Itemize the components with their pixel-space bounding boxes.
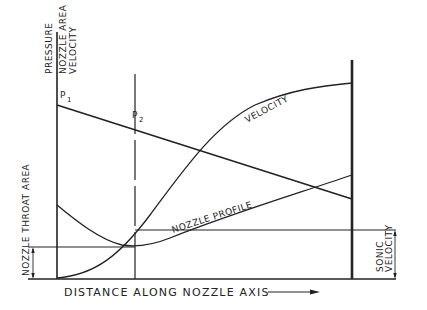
- svg-text:1: 1: [67, 96, 71, 104]
- p1-label: P 1: [60, 90, 71, 104]
- sonic-velocity-label-2: VELOCITY: [384, 224, 394, 272]
- svg-text:2: 2: [139, 116, 143, 124]
- pressure-line: [57, 105, 352, 199]
- p2-label: P 2: [132, 110, 143, 124]
- svg-text:P: P: [132, 110, 138, 120]
- svg-text:P: P: [60, 90, 66, 100]
- x-axis-title: DISTANCE ALONG NOZZLE AXIS: [64, 286, 270, 299]
- y-label-nozzle-area: NOZZLE AREA: [58, 4, 68, 74]
- throat-area-dimension: [31, 247, 34, 279]
- velocity-curve: [57, 83, 352, 278]
- velocity-curve-label: VELOCITY: [243, 94, 290, 125]
- y-label-pressure: PRESSURE: [44, 23, 54, 74]
- nozzle-diagram: PRESSURE NOZZLE AREA VELOCITY P 1 P 2 VE…: [0, 0, 427, 310]
- arrow-right-icon: [268, 290, 320, 295]
- throat-area-label: NOZZLE THROAT AREA: [21, 163, 31, 276]
- y-label-velocity: VELOCITY: [68, 26, 78, 74]
